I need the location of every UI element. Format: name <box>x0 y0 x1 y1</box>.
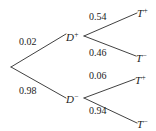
node-base-t-plus-1: T <box>137 7 143 19</box>
probability-tree-diagram: D+ D− T+ T− T+ T− 0.02 0.98 0.54 0.46 0.… <box>0 0 156 131</box>
edge-d-minus-to-t-plus <box>84 79 135 98</box>
edge-probability-t-plus-given-d-plus: 0.54 <box>89 12 107 22</box>
node-label-t-plus-from-d-plus: T+ <box>137 6 148 19</box>
edge-probability-d-plus: 0.02 <box>19 37 37 47</box>
node-label-d-plus: D+ <box>66 30 78 43</box>
node-base-d-plus: D <box>66 31 74 43</box>
node-base-t-minus-2: T <box>137 118 143 130</box>
edge-probability-d-minus: 0.98 <box>19 86 37 96</box>
edge-probability-t-plus-given-d-minus: 0.06 <box>89 71 107 81</box>
node-sign-t-plus-1: + <box>144 6 148 15</box>
node-sign-t-plus-2: + <box>142 73 146 82</box>
node-base-t-minus-1: T <box>136 52 142 64</box>
node-label-t-plus-from-d-minus: T+ <box>135 73 146 86</box>
node-label-d-minus: D− <box>66 92 78 105</box>
node-base-d-minus: D <box>66 93 74 105</box>
node-sign-d-minus: − <box>74 92 78 101</box>
node-sign-t-minus-1: − <box>143 51 147 60</box>
edge-probability-t-minus-given-d-plus: 0.46 <box>89 48 107 58</box>
node-label-t-minus-from-d-plus: T− <box>136 51 147 64</box>
node-base-t-plus-2: T <box>135 74 141 86</box>
node-sign-d-plus: + <box>74 30 78 39</box>
edge-probability-t-minus-given-d-minus: 0.94 <box>89 106 107 116</box>
node-label-t-minus-from-d-minus: T− <box>137 117 148 130</box>
tree-edges-canvas <box>0 0 156 131</box>
node-sign-t-minus-2: − <box>144 117 148 126</box>
